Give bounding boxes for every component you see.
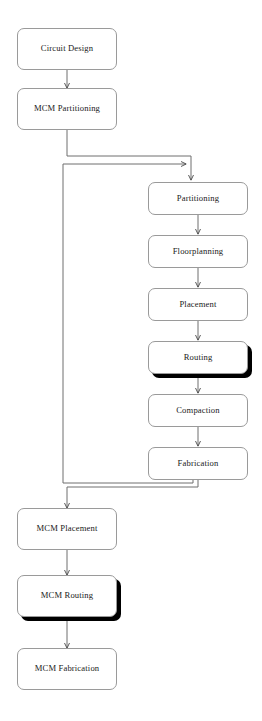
node-routing-label: Routing: [181, 353, 216, 363]
node-circuit-design[interactable]: Circuit Design: [17, 28, 117, 70]
node-mcm-fabrication[interactable]: MCM Fabrication: [17, 648, 117, 690]
node-floorplanning[interactable]: Floorplanning: [148, 235, 248, 268]
node-partitioning-label: Partitioning: [174, 194, 222, 204]
node-placement-label: Placement: [176, 300, 219, 310]
node-mcm-placement[interactable]: MCM Placement: [17, 508, 117, 550]
node-partitioning[interactable]: Partitioning: [148, 182, 248, 215]
node-floorplanning-label: Floorplanning: [170, 247, 227, 257]
node-mcm-partitioning-label: MCM Partitioning: [31, 104, 103, 114]
node-mcm-routing-label: MCM Routing: [38, 591, 97, 601]
node-mcm-fabrication-label: MCM Fabrication: [32, 664, 103, 674]
flowchart-canvas: Circuit Design MCM Partitioning Partitio…: [0, 0, 262, 721]
node-placement[interactable]: Placement: [148, 288, 248, 321]
node-mcm-routing[interactable]: MCM Routing: [17, 575, 117, 617]
node-routing[interactable]: Routing: [148, 341, 248, 374]
node-circuit-design-label: Circuit Design: [38, 44, 96, 54]
node-compaction[interactable]: Compaction: [148, 394, 248, 427]
edge-fabrication-to-mcmplacement: [67, 480, 198, 508]
edge-mcmpartitioning-to-partitioning: [67, 130, 191, 180]
node-fabrication-label: Fabrication: [175, 459, 222, 469]
node-compaction-label: Compaction: [173, 406, 223, 416]
node-mcm-partitioning[interactable]: MCM Partitioning: [17, 88, 117, 130]
node-fabrication[interactable]: Fabrication: [148, 447, 248, 480]
node-mcm-placement-label: MCM Placement: [34, 524, 101, 534]
